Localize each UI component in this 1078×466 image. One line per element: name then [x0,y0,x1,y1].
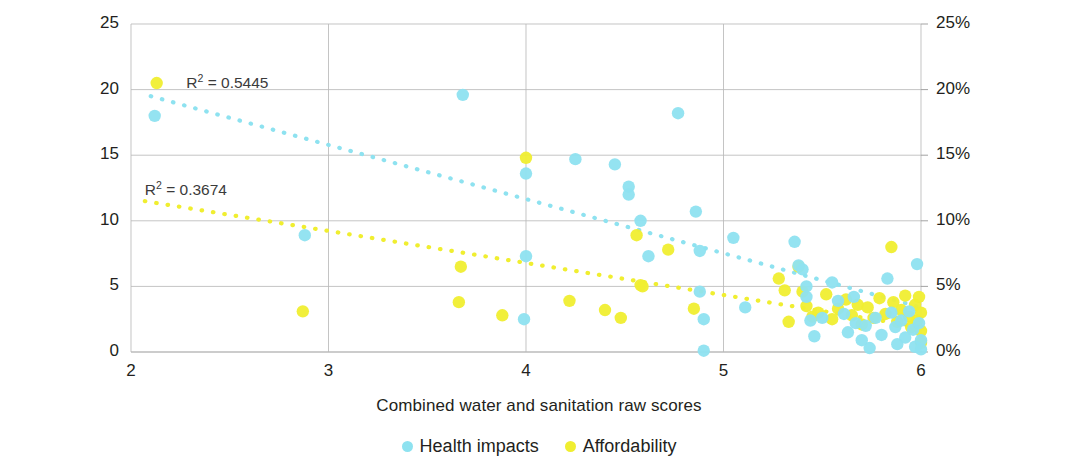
y-axis-left-tick: 5 [79,275,119,295]
x-axis-tick: 4 [506,361,546,381]
x-axis-tick: 6 [901,361,941,381]
scatter-chart-figure: Health impacts of WASH (WASH-attributabl… [0,0,1078,466]
y-axis-right-tick: 10% [936,210,991,230]
y-axis-right-tick: 15% [936,144,991,164]
x-axis-tick: 2 [111,361,151,381]
y-axis-right-tick: 5% [936,275,991,295]
legend-item[interactable]: Health impacts [402,436,539,457]
y-axis-left-tick: 20 [79,79,119,99]
r-squared-label: R2 = 0.5445 [186,72,268,92]
r-squared-label: R2 = 0.3674 [145,179,227,199]
series-health-points [149,89,928,357]
y-axis-left-tick: 25 [79,13,119,33]
x-axis-title: Combined water and sanitation raw scores [0,396,1078,417]
legend-label: Health impacts [420,436,539,457]
series-affordability-points [150,77,927,349]
legend-item[interactable]: Affordability [565,436,677,457]
legend-dot-icon [565,441,576,452]
y-axis-right-tick: 25% [936,13,991,33]
x-axis-tick: 5 [704,361,744,381]
y-axis-left-tick: 15 [79,144,119,164]
x-axis-tick: 3 [309,361,349,381]
legend-dot-icon [402,441,413,452]
y-axis-left-tick: 10 [79,210,119,230]
y-axis-right-tick: 20% [936,79,991,99]
chart-legend: Health impactsAffordability [0,436,1078,457]
legend-label: Affordability [583,436,677,457]
y-axis-left-tick: 0 [79,341,119,361]
y-axis-right-tick: 0% [936,341,991,361]
